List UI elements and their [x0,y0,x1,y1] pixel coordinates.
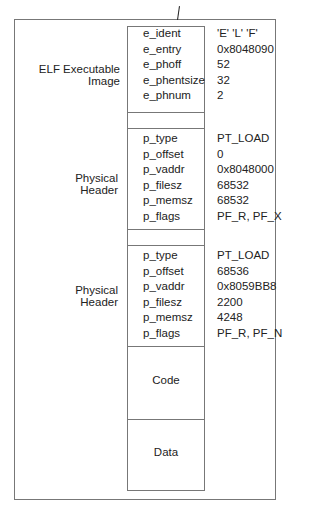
field-value: 52 [217,57,274,73]
field-name: e_phentsize [143,73,205,89]
field-name: e_phnum [143,88,205,104]
field-value: 2 [217,88,274,104]
program-header-1-fields: p_type p_offset p_vaddr p_filesz p_memsz… [143,131,193,224]
elf-header-values: 'E' 'L' 'F' 0x8048090 52 32 2 [217,26,274,104]
field-name: p_memsz [143,193,193,209]
field-name: p_flags [143,209,193,225]
field-value: PT_LOAD [217,248,282,264]
field-name: e_ident [143,26,205,42]
elf-header-label: ELF Executable Image [20,63,120,87]
field-name: p_type [143,131,193,147]
pointer-arrow [177,6,180,20]
code-segment-label: Code [127,374,205,386]
field-name: p_flags [143,326,193,342]
field-name: e_phoff [143,57,205,73]
field-name: e_entry [143,42,205,58]
field-name: p_filesz [143,295,193,311]
field-value: PT_LOAD [217,131,282,147]
field-name: p_offset [143,264,193,280]
program-header-1-values: PT_LOAD 0 0x8048000 68532 68532 PF_R, PF… [217,131,282,224]
field-name: p_offset [143,147,193,163]
field-name: p_memsz [143,310,193,326]
program-header-2-values: PT_LOAD 68536 0x8059BB8 2200 4248 PF_R, … [217,248,282,341]
field-value: 0x8048000 [217,162,282,178]
field-value: 'E' 'L' 'F' [217,26,274,42]
field-value: 2200 [217,295,282,311]
field-value: PF_R, PF_N [217,326,282,342]
field-value: 68532 [217,193,282,209]
field-value: 0x8048090 [217,42,274,58]
field-value: 68536 [217,264,282,280]
field-value: 68532 [217,178,282,194]
field-value: 4248 [217,310,282,326]
field-value: PF_R, PF_X [217,209,282,225]
field-value: 0x8059BB8 [217,279,282,295]
field-name: p_vaddr [143,279,193,295]
field-name: p_vaddr [143,162,193,178]
field-value: 0 [217,147,282,163]
field-name: p_filesz [143,178,193,194]
program-header-label-1: Physical Header [40,172,118,196]
field-value: 32 [217,73,274,89]
gap-box [127,229,205,246]
program-header-label-2: Physical Header [40,284,118,308]
field-name: p_type [143,248,193,264]
program-header-2-fields: p_type p_offset p_vaddr p_filesz p_memsz… [143,248,193,341]
data-segment-label: Data [127,446,205,458]
elf-header-fields: e_ident e_entry e_phoff e_phentsize e_ph… [143,26,205,104]
gap-box [127,112,205,129]
